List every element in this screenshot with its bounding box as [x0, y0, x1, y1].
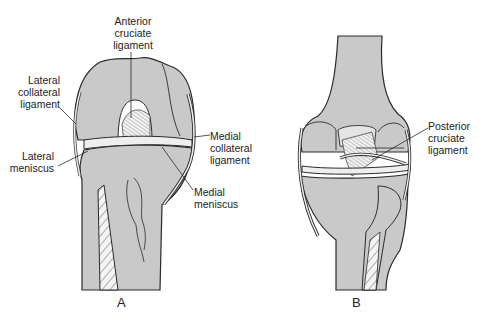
- label-line: ligament: [110, 39, 156, 51]
- panel-b-drawing: [299, 36, 428, 290]
- label-line: ligament: [8, 98, 60, 110]
- panel-label-b: B: [352, 295, 361, 310]
- label-medial-collateral-ligament: Medial collateral ligament: [210, 130, 266, 166]
- label-line: Lateral: [8, 74, 60, 86]
- label-line: cruciate: [110, 27, 156, 39]
- label-posterior-cruciate-ligament: Posterior cruciate ligament: [428, 120, 478, 156]
- label-line: ligament: [210, 154, 266, 166]
- label-line: Posterior: [428, 120, 478, 132]
- panel-a-drawing: [58, 52, 210, 290]
- label-line: Medial: [194, 186, 242, 198]
- label-lateral-meniscus: Lateral meniscus: [6, 150, 54, 174]
- label-line: ligament: [428, 144, 478, 156]
- label-line: meniscus: [194, 198, 242, 210]
- label-line: collateral: [210, 142, 266, 154]
- label-anterior-cruciate-ligament: Anterior cruciate ligament: [110, 15, 156, 51]
- label-line: collateral: [8, 86, 60, 98]
- panel-label-a: A: [117, 295, 126, 310]
- label-line: meniscus: [6, 162, 54, 174]
- label-line: Lateral: [6, 150, 54, 162]
- label-line: cruciate: [428, 132, 478, 144]
- tibia-a: [80, 145, 192, 290]
- label-lateral-collateral-ligament: Lateral collateral ligament: [8, 74, 60, 110]
- label-line: Medial: [210, 130, 266, 142]
- label-medial-meniscus: Medial meniscus: [194, 186, 242, 210]
- label-line: Anterior: [110, 15, 156, 27]
